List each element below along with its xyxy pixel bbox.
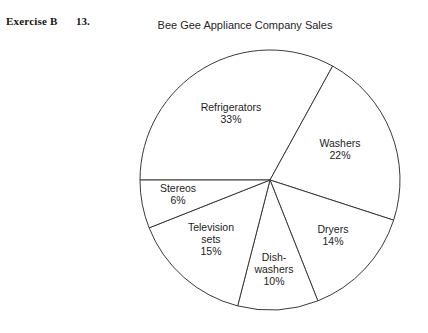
- pie-slice-label: Televisionsets15%: [188, 221, 234, 257]
- pie-slice-percent: 15%: [188, 245, 234, 257]
- pie-slice-label: Dish-washers10%: [254, 251, 293, 287]
- pie-slice-label: Stereos6%: [160, 182, 196, 206]
- pie-slice-name: sets: [188, 233, 234, 245]
- pie-slice-percent: 33%: [201, 113, 262, 125]
- pie-slice-percent: 10%: [254, 275, 293, 287]
- pie-slice-name: Refrigerators: [201, 101, 262, 113]
- pie-slice-name: Television: [188, 221, 234, 233]
- pie-slice-percent: 14%: [318, 235, 349, 247]
- pie-slice-label: Washers22%: [319, 137, 360, 161]
- pie-slice-percent: 22%: [319, 149, 360, 161]
- pie-slice-name: Washers: [319, 137, 360, 149]
- pie-slice-name: Stereos: [160, 182, 196, 194]
- pie-slice-percent: 6%: [160, 194, 196, 206]
- pie-slice-label: Refrigerators33%: [201, 101, 262, 125]
- pie-chart-svg: [0, 0, 428, 333]
- pie-slice-name: Dryers: [318, 223, 349, 235]
- pie-slice-name: washers: [254, 263, 293, 275]
- pie-slice-name: Dish-: [254, 251, 293, 263]
- pie-slice-label: Dryers14%: [318, 223, 349, 247]
- pie-chart: Refrigerators33%Washers22%Dryers14%Dish-…: [0, 0, 428, 333]
